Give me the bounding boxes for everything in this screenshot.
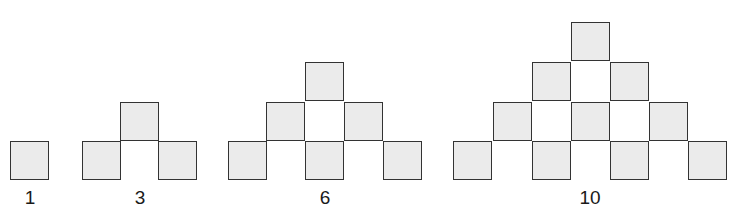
square	[266, 102, 305, 141]
square	[10, 141, 49, 180]
square	[610, 141, 649, 180]
square	[649, 102, 688, 141]
square	[453, 141, 492, 180]
figure-count-label: 6	[320, 188, 331, 207]
figure-count-label: 10	[579, 188, 600, 207]
square	[493, 102, 532, 141]
square	[571, 102, 610, 141]
square	[82, 141, 121, 180]
square	[383, 141, 422, 180]
figure-count-label: 1	[25, 188, 36, 207]
square	[688, 141, 727, 180]
square	[532, 62, 571, 101]
triangular-numbers-diagram: 13610	[0, 0, 744, 222]
square	[158, 141, 197, 180]
square	[532, 141, 571, 180]
square	[120, 102, 159, 141]
square	[610, 62, 649, 101]
square	[305, 62, 344, 101]
figure-count-label: 3	[135, 188, 146, 207]
square	[571, 22, 610, 61]
square	[228, 141, 267, 180]
square	[305, 141, 344, 180]
square	[344, 102, 383, 141]
